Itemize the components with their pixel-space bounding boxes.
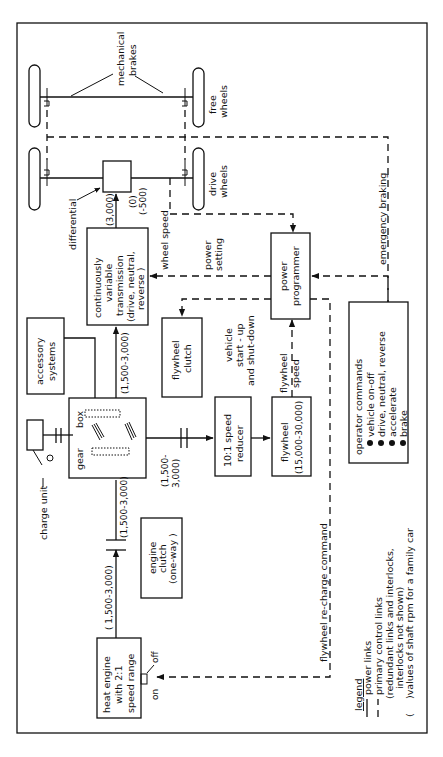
flywheel-box (272, 397, 311, 476)
speed-reducer-label-2: reducer (234, 425, 245, 462)
plug-icon (47, 455, 53, 461)
speed-reducer-label: 10:1 speed (222, 414, 233, 467)
power-setting-label: power (202, 241, 213, 270)
free-wheels-label: free (207, 95, 218, 114)
free-wheels-label-2: wheels (218, 85, 229, 118)
mechanical-brakes-label-2: brakes (127, 44, 138, 76)
flywheel-speed-label-2: speed (290, 359, 301, 388)
engine-clutch-label-3: (one-way ) (167, 533, 178, 584)
flywheel-rpm: (15,000-30,000) (294, 401, 304, 474)
gearbox-input-rpm: (1,500-3,000) (119, 476, 129, 538)
engine-switch-icon (141, 674, 147, 684)
gearbox-flywheel-rpm: (1,500- (160, 454, 170, 487)
svg-text:accelerate: accelerate (387, 387, 398, 437)
charge-unit-label: charge unit (38, 486, 49, 540)
svg-text:)values of shaft rpm for: )values of shaft rpm for a family car (404, 528, 415, 699)
drive-wheels-label: drive (207, 172, 218, 196)
charge-unit-box (27, 420, 43, 450)
svg-text:operator commands: operator commands (353, 359, 364, 455)
engine-output-rpm: ( 1,500-3,000) (104, 565, 114, 630)
speed-reducer-box (215, 397, 251, 476)
svg-text:continuously: continuously (92, 257, 103, 318)
power-setting-label-2: setting (213, 238, 224, 271)
svg-text:reverse ): reverse ) (135, 268, 146, 310)
flywheel-clutch-label-2: clutch (182, 344, 193, 373)
svg-text:power links: power links (362, 641, 373, 695)
cvt-output-neutral-rpm: (0) (128, 195, 138, 208)
accessory-systems-label: accessory (34, 337, 45, 385)
recharge-command-label: flywheel re-charge command (318, 523, 329, 662)
svg-text:vehicle on-off: vehicle on-off (365, 372, 376, 437)
power-programmer-label-2: programmer (290, 246, 301, 306)
flywheel-clutch-label: flywheel (170, 340, 181, 380)
svg-text:transmission: transmission (114, 255, 125, 316)
flywheel-label: flywheel (279, 422, 290, 462)
vehicle-startup-label-2: start - up (234, 323, 245, 367)
emergency-braking-label: emergency braking (377, 173, 388, 265)
svg-text:brake: brake (398, 410, 409, 437)
mechanical-brakes-label: mechanical (115, 31, 126, 86)
cvt-output-forward-rpm: (3,000) (105, 193, 115, 226)
wheel-speed-label: wheel speed (159, 210, 170, 270)
gearbox-flywheel-rpm-2: 3,000) (171, 459, 181, 488)
flywheel-speed-label: flywheel (278, 353, 289, 393)
svg-text:drive, neutral, reverse: drive, neutral, reverse (376, 331, 387, 437)
accessory-systems-label-2: systems (46, 342, 57, 381)
switch-off-label: off (150, 650, 160, 663)
heat-engine-label-2: with 2:1 (113, 666, 124, 704)
gear-box-label-box: box (74, 410, 85, 428)
heat-engine-label: heat engine (101, 656, 112, 713)
power-programmer-label: power (278, 262, 289, 291)
switch-on-label: on (150, 689, 160, 700)
heat-engine-label-3: speed range (125, 654, 136, 713)
legend: legend power links primary control links… (353, 528, 415, 717)
svg-text:primary control links: primary control links (373, 597, 384, 695)
svg-text:variable: variable (103, 264, 114, 302)
gear-box-label-gear: gear (74, 448, 85, 470)
cvt-output-reverse-rpm: (-500) (138, 188, 148, 215)
vehicle-startup-label-3: and shut-down (245, 315, 256, 386)
vehicle-startup-label: vehicle (223, 328, 234, 362)
differential-label: differential (67, 199, 78, 250)
svg-text:(: ( (404, 713, 415, 717)
differential-box (103, 161, 131, 192)
drive-wheels-label-2: wheels (218, 165, 229, 198)
cvt-input-rpm: (1,500-3,000) (120, 332, 130, 394)
powertrain-block-diagram: mechanical brakes free wheels drive whee… (0, 0, 443, 757)
